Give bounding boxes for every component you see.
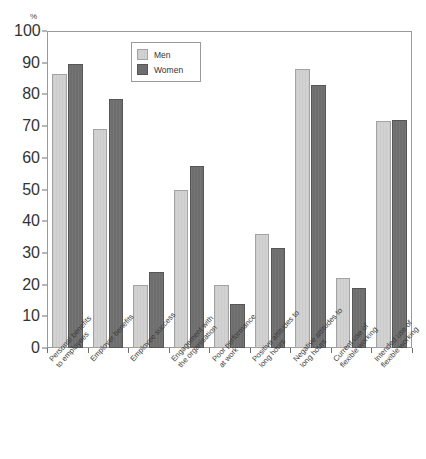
legend-swatch-women-icon bbox=[137, 64, 148, 75]
legend-label-men: Men bbox=[154, 50, 171, 60]
y-axis-tick-label: 100 bbox=[14, 22, 40, 40]
bar-women-0 bbox=[68, 64, 83, 348]
bar-men-0 bbox=[52, 74, 67, 348]
y-axis-tick-label: 50 bbox=[14, 181, 40, 199]
y-axis-tick-label: 70 bbox=[14, 117, 40, 135]
legend-item-women: Women bbox=[137, 62, 195, 77]
y-axis-tick-label: 80 bbox=[14, 85, 40, 103]
legend-item-men: Men bbox=[137, 47, 195, 62]
y-axis-tick-label: 10 bbox=[14, 307, 40, 325]
y-axis-tick-label: 90 bbox=[14, 54, 40, 72]
bar-chart: % 0102030405060708090100 Men Women Perso… bbox=[0, 0, 426, 459]
y-axis-tick-label: 40 bbox=[14, 212, 40, 230]
legend-swatch-men-icon bbox=[137, 49, 148, 60]
y-axis-unit-label: % bbox=[30, 12, 37, 21]
y-axis-tick-label: 30 bbox=[14, 244, 40, 262]
x-axis-category-labels: Personal benefitsto employeesEmployer be… bbox=[0, 352, 426, 459]
y-axis-tick-label: 20 bbox=[14, 276, 40, 294]
y-axis-tick-label: 60 bbox=[14, 149, 40, 167]
chart-legend: Men Women bbox=[131, 42, 201, 82]
bar-men-3 bbox=[174, 190, 189, 349]
legend-label-women: Women bbox=[154, 65, 183, 75]
